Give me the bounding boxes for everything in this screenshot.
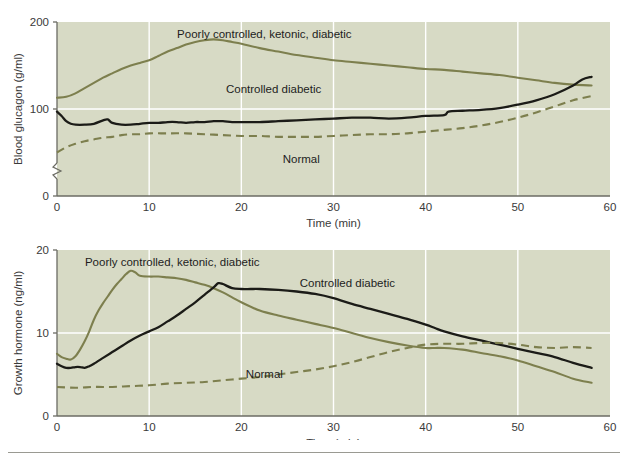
x-tick-label: 20 — [235, 421, 248, 433]
chart-panel-growth-hormone: 010203040506001020Time (min)Growth hormo… — [0, 230, 628, 440]
x-tick-label: 40 — [419, 201, 432, 213]
y-tick-label: 20 — [36, 244, 49, 256]
y-tick-label: 10 — [36, 327, 49, 339]
series-label-poorly-controlled-ketonic-diabetic: Poorly controlled, ketonic, diabetic — [85, 256, 260, 268]
series-label-controlled-diabetic: Controlled diabetic — [300, 277, 396, 289]
y-tick-label: 100 — [30, 103, 49, 115]
x-tick-label: 60 — [604, 421, 617, 433]
x-tick-label: 0 — [54, 201, 60, 213]
x-tick-label: 50 — [511, 421, 524, 433]
caption-divider — [8, 452, 620, 453]
x-tick-label: 10 — [143, 201, 156, 213]
x-tick-label: 50 — [511, 201, 524, 213]
chart-panel-blood-glucagon: 01020304050600100200Time (min)Blood gluc… — [0, 0, 628, 230]
growth-hormone-chart: 010203040506001020Time (min)Growth hormo… — [0, 230, 628, 440]
x-tick-label: 40 — [419, 421, 432, 433]
y-tick-label: 0 — [43, 410, 49, 422]
blood-glucagon-chart: 01020304050600100200Time (min)Blood gluc… — [0, 0, 628, 230]
series-label-normal: Normal — [246, 368, 283, 380]
x-tick-label: 10 — [143, 421, 156, 433]
y-axis-title: Growth hormone (ng/ml) — [12, 271, 24, 396]
hormone-response-figure: 01020304050600100200Time (min)Blood gluc… — [0, 0, 628, 468]
x-axis-title: Time (min) — [306, 437, 361, 440]
y-tick-label: 200 — [30, 16, 49, 28]
x-tick-label: 60 — [604, 201, 617, 213]
y-axis-title: Blood glucagon (g/ml) — [12, 53, 24, 165]
x-tick-label: 30 — [327, 421, 340, 433]
series-label-poorly-controlled-ketonic-diabetic: Poorly controlled, ketonic, diabetic — [177, 28, 352, 40]
series-label-normal: Normal — [283, 153, 320, 165]
y-tick-label: 0 — [43, 190, 49, 202]
x-tick-label: 30 — [327, 201, 340, 213]
x-tick-label: 20 — [235, 201, 248, 213]
x-axis-title: Time (min) — [306, 217, 361, 229]
series-label-controlled-diabetic: Controlled diabetic — [226, 83, 322, 95]
x-tick-label: 0 — [54, 421, 60, 433]
